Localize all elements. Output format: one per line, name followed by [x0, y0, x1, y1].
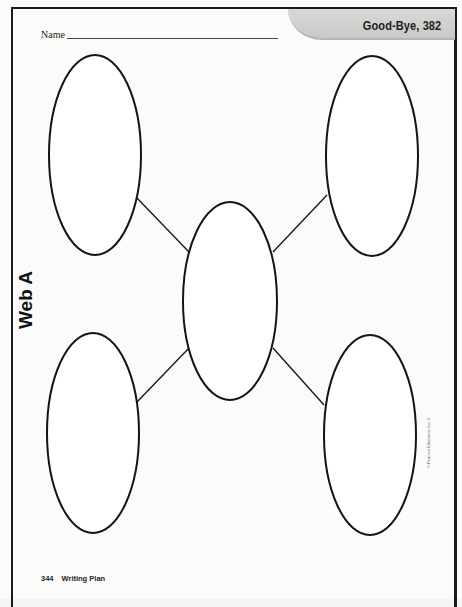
bubble-bottom-left[interactable] — [47, 333, 139, 533]
connector-bottom-right — [273, 348, 324, 405]
section-name: Writing Plan — [62, 574, 106, 583]
copyright-notice: © Pearson Education, Inc. 3 — [426, 418, 431, 468]
connector-top-right — [273, 195, 327, 252]
bubble-top-left[interactable] — [49, 55, 141, 255]
connector-top-left — [136, 197, 189, 252]
bubble-top-right[interactable] — [326, 56, 418, 256]
connector-bottom-left — [137, 348, 189, 402]
page-number: 344 — [41, 574, 54, 583]
page-footer: 344 Writing Plan — [41, 574, 105, 583]
bubble-bottom-right[interactable] — [324, 335, 416, 535]
bubble-center[interactable] — [183, 202, 277, 400]
